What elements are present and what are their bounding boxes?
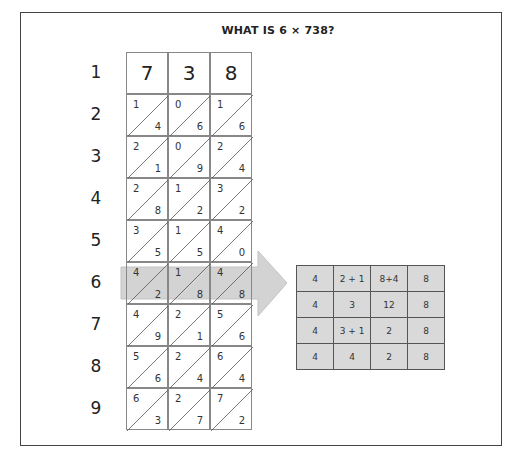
units-digit: 8 — [239, 289, 245, 300]
lattice-cell: 12 — [168, 178, 210, 220]
tens-digit: 0 — [175, 141, 181, 152]
units-digit: 5 — [155, 247, 161, 258]
lattice-cell: 14 — [126, 94, 168, 136]
result-cell: 4 — [297, 266, 334, 292]
result-cell: 4 — [297, 318, 334, 344]
header-digit: 7 — [126, 52, 168, 94]
units-digit: 2 — [239, 415, 245, 426]
units-digit: 2 — [197, 205, 203, 216]
units-digit: 6 — [197, 121, 203, 132]
result-cell: 8+4 — [371, 266, 408, 292]
lattice-cell: 35 — [126, 220, 168, 262]
units-digit: 1 — [155, 163, 161, 174]
lattice-cell: 09 — [168, 136, 210, 178]
lattice-cell: 56 — [126, 346, 168, 388]
lattice-cell: 21 — [126, 136, 168, 178]
units-digit: 6 — [239, 331, 245, 342]
tens-digit: 6 — [133, 393, 139, 404]
header-digit: 8 — [210, 52, 252, 94]
lattice-cell: 16 — [210, 94, 252, 136]
tens-digit: 2 — [133, 141, 139, 152]
lattice-cell: 64 — [210, 346, 252, 388]
tens-digit: 2 — [175, 393, 181, 404]
tens-digit: 1 — [175, 183, 181, 194]
result-cell: 2 — [371, 344, 408, 370]
tens-digit: 7 — [217, 393, 223, 404]
lattice-cell: 63 — [126, 388, 168, 430]
tens-digit: 3 — [133, 225, 139, 236]
lattice-cell: 48 — [210, 262, 252, 304]
lattice-cell: 49 — [126, 304, 168, 346]
result-cell: 8 — [408, 344, 445, 370]
row-label: 4 — [80, 188, 112, 208]
tens-digit: 2 — [175, 309, 181, 320]
tens-digit: 4 — [217, 225, 223, 236]
units-digit: 2 — [155, 289, 161, 300]
lattice-cell: 18 — [168, 262, 210, 304]
row-label: 1 — [80, 62, 112, 82]
units-digit: 8 — [197, 289, 203, 300]
units-digit: 9 — [197, 163, 203, 174]
result-cell: 3 — [334, 292, 371, 318]
row-label: 8 — [80, 356, 112, 376]
units-digit: 5 — [197, 247, 203, 258]
result-cell: 2 + 1 — [334, 266, 371, 292]
result-cell: 4 — [297, 292, 334, 318]
row-label: 2 — [80, 104, 112, 124]
tens-digit: 4 — [133, 267, 139, 278]
tens-digit: 5 — [133, 351, 139, 362]
tens-digit: 2 — [217, 141, 223, 152]
tens-digit: 2 — [133, 183, 139, 194]
lattice-cell: 42 — [126, 262, 168, 304]
units-digit: 8 — [155, 205, 161, 216]
lattice-cell: 56 — [210, 304, 252, 346]
tens-digit: 0 — [175, 99, 181, 110]
result-row: 4428 — [297, 344, 445, 370]
tens-digit: 4 — [133, 309, 139, 320]
tens-digit: 1 — [175, 225, 181, 236]
arrow-icon — [0, 0, 516, 464]
units-digit: 6 — [239, 121, 245, 132]
result-row: 42 + 18+48 — [297, 266, 445, 292]
row-label: 9 — [80, 398, 112, 418]
tens-digit: 6 — [217, 351, 223, 362]
units-digit: 4 — [239, 163, 245, 174]
units-digit: 4 — [239, 373, 245, 384]
units-digit: 6 — [155, 373, 161, 384]
lattice-cell: 24 — [168, 346, 210, 388]
result-cell: 8 — [408, 292, 445, 318]
units-digit: 3 — [155, 415, 161, 426]
row-label: 5 — [80, 230, 112, 250]
lattice-cell: 72 — [210, 388, 252, 430]
units-digit: 9 — [155, 331, 161, 342]
tens-digit: 5 — [217, 309, 223, 320]
tens-digit: 1 — [133, 99, 139, 110]
lattice-cell: 15 — [168, 220, 210, 262]
row-label: 7 — [80, 314, 112, 334]
result-cell: 8 — [408, 266, 445, 292]
result-cell: 8 — [408, 318, 445, 344]
units-digit: 1 — [197, 331, 203, 342]
units-digit: 4 — [197, 373, 203, 384]
row-label: 3 — [80, 146, 112, 166]
lattice-cell: 32 — [210, 178, 252, 220]
result-cell: 2 — [371, 318, 408, 344]
result-row: 43128 — [297, 292, 445, 318]
lattice-cell: 40 — [210, 220, 252, 262]
units-digit: 7 — [197, 415, 203, 426]
header-digit: 3 — [168, 52, 210, 94]
result-table: 42 + 18+484312843 + 1284428 — [296, 265, 445, 370]
tens-digit: 4 — [217, 267, 223, 278]
lattice-cell: 28 — [126, 178, 168, 220]
units-digit: 2 — [239, 205, 245, 216]
result-row: 43 + 128 — [297, 318, 445, 344]
lattice-cell: 06 — [168, 94, 210, 136]
tens-digit: 3 — [217, 183, 223, 194]
tens-digit: 2 — [175, 351, 181, 362]
lattice-cell: 21 — [168, 304, 210, 346]
result-cell: 4 — [334, 344, 371, 370]
tens-digit: 1 — [175, 267, 181, 278]
result-cell: 12 — [371, 292, 408, 318]
result-cell: 4 — [297, 344, 334, 370]
lattice-cell: 27 — [168, 388, 210, 430]
